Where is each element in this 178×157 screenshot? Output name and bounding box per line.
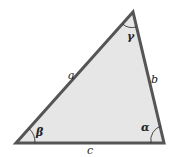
angle-label-gamma: γ	[127, 30, 135, 43]
angle-label-beta: β	[35, 126, 44, 139]
triangle-diagram: a b c γ β α	[0, 0, 178, 157]
side-label-b: b	[151, 73, 158, 86]
side-label-c: c	[87, 144, 93, 157]
side-label-a: a	[68, 69, 75, 82]
angle-label-alpha: α	[141, 121, 150, 134]
